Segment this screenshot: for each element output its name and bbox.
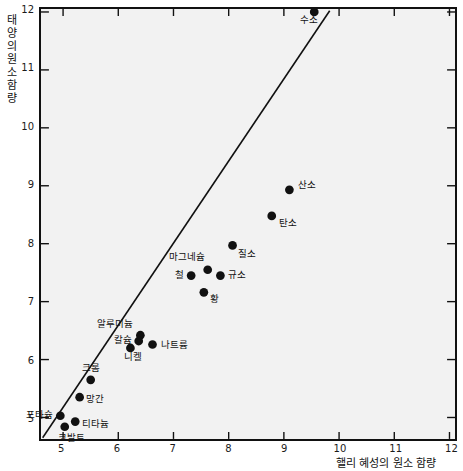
point-label-코발트: 코발트 (58, 433, 85, 443)
y-axis-title-char: 양 (2, 27, 22, 40)
data-point-칼슘[interactable] (134, 337, 143, 346)
y-axis-title-char: 의 (2, 40, 22, 53)
x-axis-title: 핼리 혜성의 원소 함량 (336, 454, 437, 470)
point-label-철: 철 (175, 270, 184, 280)
y-tick-label: 6 (8, 355, 34, 366)
point-label-칼슘: 칼슘 (114, 335, 132, 345)
x-tick-label: 12 (438, 443, 463, 454)
y-axis-title-char: 량 (2, 92, 22, 105)
y-tick-label: 12 (8, 4, 34, 15)
data-point-황[interactable] (199, 288, 208, 297)
y-tick-label: 11 (8, 62, 34, 73)
y-tick-label: 9 (8, 179, 34, 190)
data-point-나트륨[interactable] (148, 340, 157, 349)
point-label-나트륨: 나트륨 (161, 340, 188, 350)
point-label-망간: 망간 (86, 394, 104, 404)
data-point-크롬[interactable] (86, 375, 95, 384)
plot-canvas (41, 9, 455, 439)
x-tick-label: 10 (327, 443, 353, 454)
point-label-탄소: 탄소 (279, 218, 297, 228)
y-axis-title-char: 함 (2, 79, 22, 92)
data-point-탄소[interactable] (267, 212, 276, 221)
point-label-티타늄: 티타늄 (82, 419, 109, 429)
x-tick-label: 7 (160, 443, 186, 454)
point-label-수소: 수소 (300, 15, 318, 25)
x-tick-label: 11 (383, 443, 409, 454)
data-point-규소[interactable] (216, 271, 225, 280)
y-tick-label: 8 (8, 238, 34, 249)
point-label-포타슘: 포타슘 (26, 410, 53, 420)
data-point-산소[interactable] (285, 185, 294, 194)
data-point-철[interactable] (187, 271, 196, 280)
point-label-니켈: 니켈 (124, 352, 142, 362)
scatter-chart-figure: 태양의원소함량 5678910111256789101112수소산소탄소질소마그… (0, 0, 463, 471)
data-point-질소[interactable] (228, 241, 237, 250)
x-tick-label: 8 (215, 443, 241, 454)
point-label-마그네슘: 마그네슘 (169, 252, 205, 262)
point-label-황: 황 (210, 294, 219, 304)
x-tick-label: 5 (48, 443, 74, 454)
plot-area (39, 7, 457, 441)
point-label-산소: 산소 (298, 180, 316, 190)
data-point-티타늄[interactable] (71, 417, 80, 426)
x-tick-label: 6 (104, 443, 130, 454)
y-tick-label: 10 (8, 121, 34, 132)
point-label-질소: 질소 (238, 249, 256, 259)
data-point-마그네슘[interactable] (203, 265, 212, 274)
x-tick-label: 9 (271, 443, 297, 454)
data-point-망간[interactable] (75, 393, 84, 402)
point-label-알루미늄: 알루미늄 (97, 319, 133, 329)
y-tick-label: 7 (8, 296, 34, 307)
y-axis-title-char: 태 (2, 14, 22, 27)
y-axis-title: 태양의원소함량 (2, 14, 22, 105)
data-point-포타슘[interactable] (56, 411, 65, 420)
point-label-규소: 규소 (228, 270, 246, 280)
data-point-코발트[interactable] (60, 422, 69, 431)
point-label-크롬: 크롬 (82, 363, 100, 373)
